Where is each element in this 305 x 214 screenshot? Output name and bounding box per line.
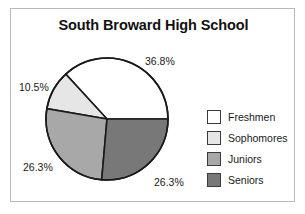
pie-label-sophomores: 10.5% <box>19 81 49 93</box>
pie-slice-seniors[interactable] <box>102 119 168 180</box>
pie-chart-area: 36.8% 10.5% 26.3% 26.3% <box>11 9 201 203</box>
pie-chart-svg <box>11 9 201 203</box>
pie-slice-juniors[interactable] <box>46 109 107 180</box>
chart-legend: Freshmen Sophomores Juniors Seniors <box>207 107 295 191</box>
legend-item-seniors[interactable]: Seniors <box>207 170 295 190</box>
pie-label-freshmen: 36.8% <box>145 55 175 67</box>
legend-label-freshmen: Freshmen <box>228 111 275 123</box>
pie-label-seniors: 26.3% <box>154 176 184 188</box>
legend-item-juniors[interactable]: Juniors <box>207 149 295 169</box>
legend-swatch-juniors <box>207 152 221 166</box>
pie-label-juniors: 26.3% <box>23 161 53 173</box>
legend-item-sophomores[interactable]: Sophomores <box>207 128 295 148</box>
legend-label-sophomores: Sophomores <box>228 132 288 144</box>
legend-swatch-sophomores <box>207 131 221 145</box>
chart-figure: South Broward High School 36.8% 10.5% 26… <box>10 8 295 202</box>
legend-label-seniors: Seniors <box>228 174 264 186</box>
legend-swatch-seniors <box>207 173 221 187</box>
legend-item-freshmen[interactable]: Freshmen <box>207 107 295 127</box>
legend-label-juniors: Juniors <box>228 153 262 165</box>
legend-swatch-freshmen <box>207 110 221 124</box>
